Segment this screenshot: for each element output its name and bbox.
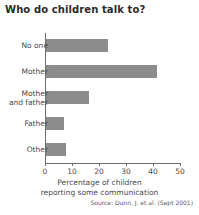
x-tick-mark-5 [180, 163, 181, 166]
x-tick-mark-1 [72, 163, 73, 166]
bar-chart-figure: Who do children talk to? 01020304050 No … [0, 0, 199, 215]
bar-fill [46, 117, 64, 130]
bar-fill [46, 143, 66, 156]
x-tick-mark-0 [45, 163, 46, 166]
bar-fill [46, 39, 108, 52]
x-tick-mark-2 [99, 163, 100, 166]
plot-area: 01020304050 [45, 33, 180, 163]
x-tick-label-4: 40 [148, 167, 158, 176]
category-label-1: No one [2, 41, 48, 50]
category-label-5: Other [2, 145, 48, 154]
x-axis-title-line-2: reporting some communication [0, 188, 199, 198]
category-label-3: Mother and father [2, 89, 48, 107]
x-axis-line [45, 163, 181, 164]
x-tick-label-5: 50 [175, 167, 185, 176]
x-axis-title: Percentage of children reporting some co… [0, 178, 199, 197]
x-axis-title-line-1: Percentage of children [0, 178, 199, 188]
x-tick-label-2: 20 [94, 167, 104, 176]
x-tick-label-1: 10 [67, 167, 77, 176]
x-tick-mark-3 [126, 163, 127, 166]
x-tick-label-3: 30 [121, 167, 131, 176]
source-note: Source: Dunn, J. et al. (Sept 2001) [90, 199, 193, 206]
x-tick-mark-4 [153, 163, 154, 166]
category-label-4: Father [2, 119, 48, 128]
page-title: Who do children talk to? [5, 4, 145, 15]
category-label-2: Mother [2, 67, 48, 76]
x-tick-label-0: 0 [43, 167, 48, 176]
bar-fill [46, 91, 89, 104]
bar-fill [46, 65, 157, 78]
